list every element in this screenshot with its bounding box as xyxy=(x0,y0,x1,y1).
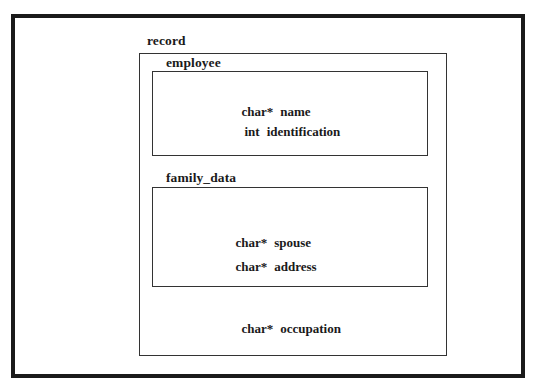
field-record-occupation: char*occupation xyxy=(235,309,341,335)
field-name: identification xyxy=(267,125,341,138)
employee-label: employee xyxy=(166,56,221,70)
field-family-spouse: char*spouse xyxy=(229,223,311,249)
field-type: char* xyxy=(242,322,274,335)
family-data-label: family_data xyxy=(166,171,236,185)
field-family-address: char*address xyxy=(229,247,317,273)
field-type: char* xyxy=(236,260,268,273)
record-label: record xyxy=(147,34,186,48)
field-employee-identification: intidentification xyxy=(238,112,340,138)
field-name: address xyxy=(274,260,316,273)
field-name: occupation xyxy=(280,322,341,335)
field-type: int xyxy=(245,125,260,138)
